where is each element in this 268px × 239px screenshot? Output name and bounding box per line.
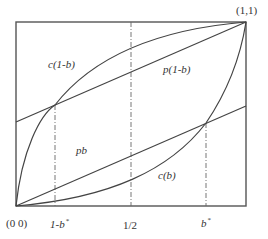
diagram: (0 0) (1,1) 1-b* 1/2 b* c(1-b) p(1-b) pb… — [0, 0, 268, 239]
tick-text-bstar: b — [201, 217, 207, 229]
label-c-b-text: c(b) — [158, 169, 176, 181]
label-origin: (0 0) — [6, 218, 27, 229]
label-c-one-minus-b-text: c(1-b) — [48, 58, 75, 70]
label-c-b: c(b) — [158, 170, 176, 181]
tick-label-one-minus-bstar: 1-b* — [50, 218, 69, 230]
diagram-canvas — [0, 0, 268, 239]
label-pb: pb — [76, 145, 87, 156]
label-top-right: (1,1) — [236, 5, 257, 16]
label-p-one-minus-b-text: p(1-b) — [163, 63, 191, 75]
label-c-one-minus-b: c(1-b) — [48, 59, 75, 70]
label-p-one-minus-b: p(1-b) — [163, 64, 191, 75]
tick-sup-bstar: * — [208, 216, 212, 224]
tick-text-one-minus-bstar: 1-b — [50, 218, 65, 230]
tick-label-bstar: b* — [201, 217, 211, 229]
tick-label-half: 1/2 — [123, 220, 137, 231]
tick-sup-one-minus-bstar: * — [66, 217, 70, 225]
line-pb — [16, 106, 246, 206]
label-pb-text: pb — [76, 144, 87, 156]
